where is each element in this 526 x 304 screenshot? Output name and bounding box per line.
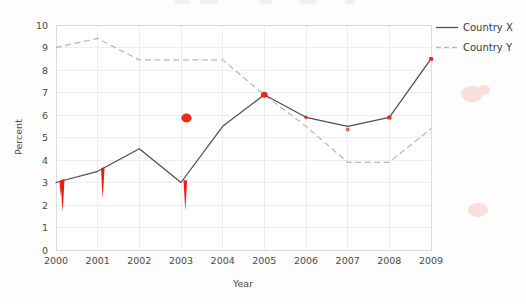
legend-label-country-x: Country X (463, 22, 513, 33)
x-tick-2006: 2006 (294, 255, 318, 266)
chart-figure: 0 1 2 3 4 5 6 7 8 9 10 2000 2001 2002 20… (0, 0, 526, 304)
x-axis-title: Year (232, 278, 253, 289)
y-tick-1: 1 (42, 222, 48, 233)
x-tick-2009: 2009 (419, 255, 443, 266)
y-tick-8: 8 (42, 65, 48, 76)
x-tick-2002: 2002 (127, 255, 151, 266)
y-tick-5: 5 (42, 132, 48, 143)
y-tick-3: 3 (42, 177, 48, 188)
y-tick-4: 4 (42, 155, 48, 166)
y-tick-7: 7 (42, 87, 48, 98)
y-tick-6: 6 (42, 110, 48, 121)
x-tick-2003: 2003 (169, 255, 193, 266)
y-tick-0: 0 (42, 245, 48, 256)
chart-legend: Country X Country Y (436, 22, 513, 53)
pink-smudge-artifacts (461, 85, 490, 217)
x-tick-2000: 2000 (44, 255, 68, 266)
x-tick-2001: 2001 (86, 255, 110, 266)
x-tick-2004: 2004 (211, 255, 235, 266)
x-tick-2005: 2005 (252, 255, 276, 266)
y-tick-9: 9 (42, 42, 48, 53)
y-axis-title: Percent (13, 119, 24, 155)
x-axis-tick-labels: 2000 2001 2002 2003 2004 2005 2006 2007 … (44, 255, 443, 266)
ghost-title-remnant (175, 0, 355, 4)
y-tick-10: 10 (36, 20, 48, 31)
x-tick-2007: 2007 (336, 255, 360, 266)
x-tick-2008: 2008 (377, 255, 401, 266)
y-axis-tick-labels: 0 1 2 3 4 5 6 7 8 9 10 (36, 20, 48, 256)
y-tick-2: 2 (42, 200, 48, 211)
legend-label-country-y: Country Y (463, 42, 513, 53)
line-chart: 0 1 2 3 4 5 6 7 8 9 10 2000 2001 2002 20… (0, 0, 526, 304)
